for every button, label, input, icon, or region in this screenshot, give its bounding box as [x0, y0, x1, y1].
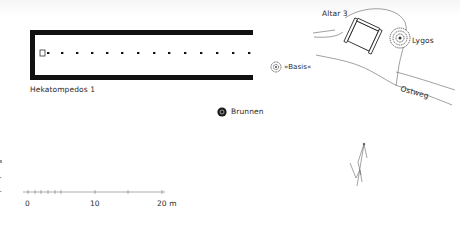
scale-bar [23, 190, 165, 194]
label-basis: »Basis« [284, 63, 311, 71]
north-arrow-icon [350, 143, 367, 186]
column-row [47, 52, 250, 54]
well-icon [217, 107, 226, 116]
terrain-lines [313, 9, 455, 105]
label-hekatompedos: Hekatompedos 1 [30, 85, 95, 94]
margin-marks [0, 160, 2, 192]
site-plan [0, 0, 460, 228]
scale-label-0: 0 [25, 199, 30, 208]
lygos-tree-icon [390, 28, 410, 48]
label-brunnen: Brunnen [231, 107, 264, 116]
scale-label-20m: 20 m [157, 199, 177, 208]
altar-structure [344, 17, 383, 54]
hekatompedos-walls [30, 30, 253, 80]
label-altar: Altar 3 [322, 9, 348, 18]
base-square [40, 50, 45, 56]
label-lygos: Lygos [412, 36, 434, 45]
scale-label-10: 10 [90, 199, 100, 208]
basis-icon [271, 62, 281, 72]
